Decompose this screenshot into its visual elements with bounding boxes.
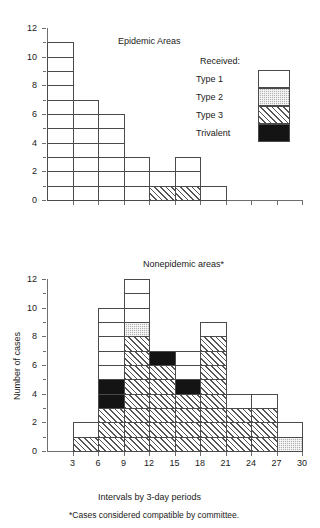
x-tick (277, 452, 278, 456)
bar-cell (226, 394, 253, 409)
x-tick-label: 21 (218, 459, 234, 468)
x-tick (175, 201, 176, 205)
y-tick (42, 28, 46, 29)
y-tick-minor (43, 379, 46, 380)
bar-cell (73, 157, 100, 172)
bar-cell (200, 351, 227, 366)
bar-cell (200, 394, 227, 409)
bar-cell (124, 336, 151, 351)
bar-cell (175, 157, 202, 172)
bar-cell (200, 186, 227, 201)
legend-item-label: Type 2 (196, 92, 223, 102)
bar-cell (200, 408, 227, 423)
y-tick-label: 4 (21, 139, 37, 148)
bar-cell (149, 394, 176, 409)
bar-cell (47, 85, 74, 100)
x-tick (226, 201, 227, 205)
y-tick-minor (43, 437, 46, 438)
bar-cell (73, 143, 100, 158)
bar-cell (200, 422, 227, 437)
y-tick-label: 10 (21, 53, 37, 62)
bar-cell (98, 336, 125, 351)
y-tick (42, 279, 46, 280)
chart-epidemic-title: Epidemic Areas (118, 36, 181, 46)
bar-cell (47, 186, 74, 201)
y-tick-label: 2 (21, 167, 37, 176)
bar-cell (98, 128, 125, 143)
bar-cell (175, 379, 202, 394)
bar-cell (73, 437, 100, 452)
bar-cell (149, 422, 176, 437)
bar-cell (98, 114, 125, 129)
x-tick (73, 452, 74, 456)
x-tick-label: 12 (141, 459, 157, 468)
bar-cell (200, 379, 227, 394)
bar-cell (47, 171, 74, 186)
bar-cell (124, 293, 151, 308)
bar-cell (124, 422, 151, 437)
x-tick-label: 9 (116, 459, 132, 468)
y-tick-minor (43, 71, 46, 72)
bar-cell (124, 171, 151, 186)
bar-cell (47, 114, 74, 129)
x-tick-label: 18 (192, 459, 208, 468)
y-tick-minor (43, 42, 46, 43)
y-axis-line (47, 279, 48, 452)
y-tick (42, 451, 46, 452)
y-tick-minor (43, 100, 46, 101)
x-tick (302, 452, 303, 456)
x-tick (200, 452, 201, 456)
legend-swatch-t2 (258, 88, 290, 106)
y-tick (42, 394, 46, 395)
bar-cell (124, 308, 151, 323)
bar-cell (47, 128, 74, 143)
bar-cell (175, 351, 202, 366)
bar-cell (98, 379, 125, 394)
figure-footnote: *Cases considered compatible by committe… (69, 510, 239, 520)
y-tick-label: 12 (21, 24, 37, 33)
bar-cell (149, 408, 176, 423)
y-tick-minor (43, 293, 46, 294)
y-tick (42, 171, 46, 172)
bar-cell (98, 422, 125, 437)
x-tick-label: 24 (243, 459, 259, 468)
bar-cell (98, 157, 125, 172)
bar-cell (251, 422, 278, 437)
bar-cell (73, 114, 100, 129)
bar-cell (251, 437, 278, 452)
x-tick-label: 6 (90, 459, 106, 468)
bar-cell (124, 351, 151, 366)
bar-cell (124, 279, 151, 294)
legend-item-label: Type 1 (196, 74, 223, 84)
y-tick (42, 143, 46, 144)
y-tick-label: 0 (21, 447, 37, 456)
legend: Received: Type 1Type 2Type 3Trivalent (196, 56, 316, 146)
bar-cell (73, 186, 100, 201)
y-tick-label: 8 (21, 332, 37, 341)
y-tick-label: 6 (21, 361, 37, 370)
y-tick-label: 0 (21, 196, 37, 205)
bar-cell (175, 186, 202, 201)
y-tick (42, 422, 46, 423)
bar-cell (47, 42, 74, 57)
y-tick (42, 57, 46, 58)
x-tick (98, 452, 99, 456)
bar-cell (175, 394, 202, 409)
bar-cell (98, 394, 125, 409)
bar-cell (98, 171, 125, 186)
chart-nonepidemic-areas: Nonepidemic areas* Number of cases Inter… (0, 236, 320, 528)
bar-cell (200, 322, 227, 337)
bar-cell (124, 365, 151, 380)
x-tick (302, 201, 303, 205)
x-tick (251, 452, 252, 456)
y-tick (42, 200, 46, 201)
bar-cell (98, 143, 125, 158)
x-axis-title: Intervals by 3-day periods (98, 492, 201, 502)
bar-cell (175, 171, 202, 186)
bar-cell (277, 422, 304, 437)
bar-cell (98, 365, 125, 380)
bar-cell (73, 422, 100, 437)
bar-cell (226, 408, 253, 423)
y-tick-minor (43, 322, 46, 323)
legend-title: Received: (200, 56, 240, 66)
